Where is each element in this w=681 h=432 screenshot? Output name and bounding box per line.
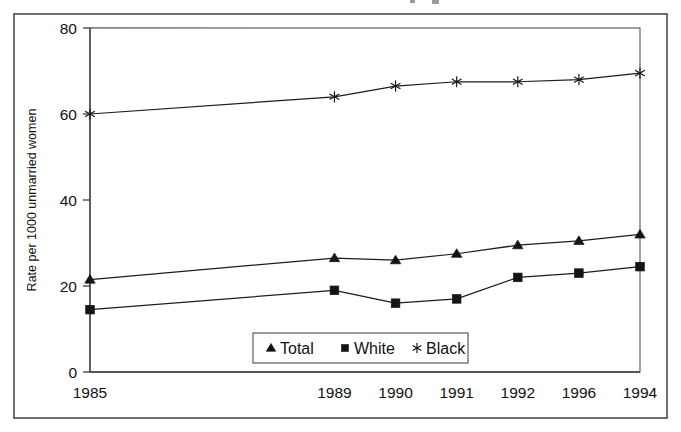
y-tick-label-0: 0 xyxy=(68,364,77,381)
cropped-title-fragment-right xyxy=(432,0,439,4)
legend-label-white: White xyxy=(354,340,395,357)
square-marker xyxy=(575,269,584,278)
legend-label-black: Black xyxy=(426,340,466,357)
legend-label-total: Total xyxy=(280,340,314,357)
y-tick-label-20: 20 xyxy=(60,278,78,295)
line-chart-figure: 020406080 1985198919901991199219961994 R… xyxy=(0,0,681,432)
plot-area-border xyxy=(90,28,640,372)
square-marker xyxy=(513,273,522,282)
square-marker xyxy=(452,295,461,304)
x-tick-label-1990: 1990 xyxy=(378,384,413,401)
x-tick-label-1985: 1985 xyxy=(73,384,107,401)
square-marker xyxy=(636,262,645,271)
square-marker xyxy=(342,345,349,352)
y-tick-label-60: 60 xyxy=(60,106,78,123)
square-marker xyxy=(330,286,339,295)
x-tick-label-1989: 1989 xyxy=(317,384,351,401)
square-marker xyxy=(86,305,95,314)
y-tick-label-40: 40 xyxy=(60,192,78,209)
x-tick-label-1992: 1992 xyxy=(501,384,535,401)
square-marker xyxy=(391,299,400,308)
x-tick-label-1996: 1996 xyxy=(562,384,596,401)
y-axis-title: Rate per 1000 unmarried women xyxy=(25,109,39,292)
cropped-title-fragment-left xyxy=(410,0,415,3)
x-tick-label-1994: 1994 xyxy=(623,384,658,401)
x-tick-label-1991: 1991 xyxy=(439,384,473,401)
chart-legend: TotalWhiteBlack xyxy=(253,333,468,363)
y-tick-label-80: 80 xyxy=(60,20,78,37)
